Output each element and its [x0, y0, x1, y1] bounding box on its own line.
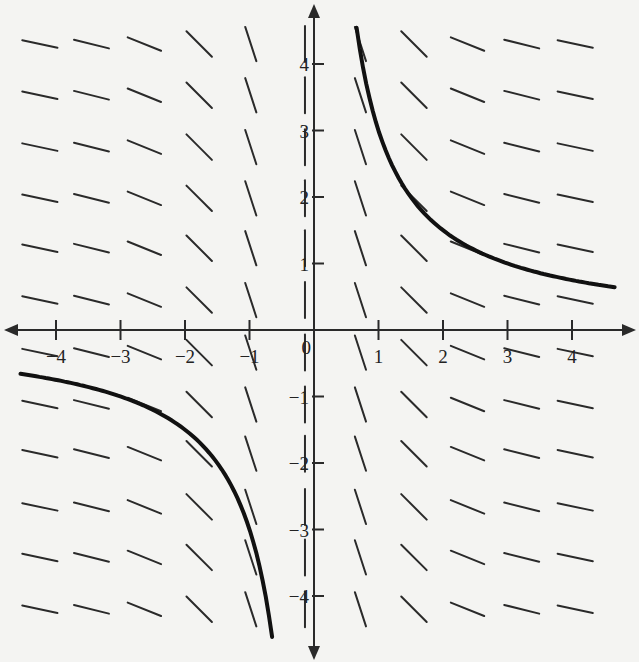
slope-segment [245, 231, 256, 265]
x-tick-label: −2 [175, 346, 195, 367]
slope-segment [128, 500, 161, 513]
y-tick-label: −1 [289, 387, 309, 408]
slope-segment [355, 437, 366, 471]
slope-segment [245, 27, 256, 61]
slope-segment [128, 603, 161, 616]
slope-segment [186, 392, 211, 417]
slope-segment [355, 335, 366, 369]
x-tick-label: −4 [46, 346, 67, 367]
slope-segment [558, 606, 593, 613]
slope-segment [245, 592, 256, 626]
slope-segment [451, 398, 484, 411]
slope-segment [504, 40, 539, 49]
slope-segment [401, 287, 426, 312]
x-axis-left-arrow-icon [4, 324, 18, 336]
slope-segment [451, 89, 484, 102]
slope-segment [74, 143, 109, 152]
x-axis-right-arrow-icon [622, 324, 636, 336]
slope-segment [504, 503, 539, 512]
slope-segment [186, 287, 211, 312]
slope-segment [451, 447, 484, 460]
x-tick-label: 1 [374, 346, 384, 367]
slope-segment [128, 346, 161, 359]
slope-segment [355, 540, 366, 574]
slope-segment [451, 346, 484, 359]
slope-segment [401, 441, 426, 466]
slope-segment [128, 89, 161, 102]
slope-segment [186, 83, 211, 108]
slope-segment [451, 37, 484, 50]
slope-segment [22, 554, 57, 561]
slope-segment [128, 192, 161, 205]
slope-segment [451, 192, 484, 205]
slope-segment [22, 401, 57, 408]
slope-segment [74, 194, 109, 203]
slope-segment [74, 348, 109, 357]
slope-segment [504, 244, 539, 253]
slope-segment [451, 551, 484, 564]
slope-segment [401, 392, 426, 417]
slope-segment [186, 494, 211, 519]
slope-segment [22, 606, 57, 613]
slope-field-chart: −4−3−2−112344321−1−2−3−40 [0, 0, 639, 662]
slope-segment [451, 500, 484, 513]
slope-segment [245, 387, 256, 421]
slope-segment [74, 605, 109, 614]
slope-segment [401, 134, 426, 159]
chart-svg: −4−3−2−112344321−1−2−3−40 [0, 0, 639, 662]
y-tick-label: 3 [300, 121, 310, 142]
slope-segment [451, 293, 484, 306]
slope-segment [558, 195, 593, 202]
slope-segment [245, 283, 256, 317]
slope-segment [22, 244, 57, 251]
slope-segment [22, 143, 57, 150]
slope-segment [558, 40, 593, 47]
slope-segment [74, 91, 109, 100]
x-tick-label: −3 [110, 346, 130, 367]
slope-segment [504, 91, 539, 100]
slope-segment [74, 553, 109, 562]
slope-segment [558, 554, 593, 561]
slope-segment [401, 235, 426, 260]
axes [4, 4, 636, 660]
slope-segment [504, 400, 539, 409]
slope-segment [245, 78, 256, 112]
slope-segment [355, 130, 366, 164]
slope-segment [504, 449, 539, 458]
slope-segment [186, 134, 211, 159]
slope-segment [504, 553, 539, 562]
slope-segment [558, 143, 593, 150]
slope-segment [401, 597, 426, 622]
slope-segment [558, 296, 593, 303]
x-tick-label: −1 [239, 346, 259, 367]
slope-segment [504, 143, 539, 152]
slope-segment [128, 37, 161, 50]
y-tick-label: −4 [289, 586, 310, 607]
slope-segment [186, 235, 211, 260]
slope-segment [22, 92, 57, 99]
y-tick-label: 2 [300, 187, 310, 208]
y-tick-label: −3 [289, 520, 309, 541]
slope-segment [558, 450, 593, 457]
slope-segment [355, 592, 366, 626]
y-tick-label: 1 [300, 254, 310, 275]
slope-segment [245, 181, 256, 215]
slope-segment [128, 293, 161, 306]
x-tick-label: 3 [503, 346, 513, 367]
slope-segment [22, 503, 57, 510]
x-tick-label: 4 [567, 346, 577, 367]
slope-segment [401, 83, 426, 108]
slope-segment [401, 494, 426, 519]
slope-segment [186, 31, 211, 56]
x-tick-label: 2 [438, 346, 448, 367]
slope-segment [504, 605, 539, 614]
slope-segment [128, 551, 161, 564]
slope-segment [22, 195, 57, 202]
solution-curves [21, 28, 615, 637]
slope-segment [558, 503, 593, 510]
slope-segment [558, 401, 593, 408]
slope-segment [451, 140, 484, 153]
slope-segment [22, 40, 57, 47]
slope-segment [504, 194, 539, 203]
slope-segment [245, 130, 256, 164]
